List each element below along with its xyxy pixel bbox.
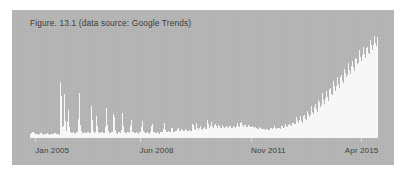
- x-axis: Jan 2005Jun 2008Nov 2011Apr 2015: [30, 138, 378, 160]
- x-axis-tick-mark: [361, 138, 362, 142]
- x-axis-tick-mark: [251, 138, 252, 142]
- plot-area: [30, 30, 378, 138]
- x-axis-tick-label: Jun 2008: [140, 145, 174, 156]
- x-axis-tick-label: Apr 2015: [345, 145, 379, 156]
- figure-caption: Figure. 13.1 (data source: Google Trends…: [30, 18, 191, 29]
- x-axis-tick-label: Jan 2005: [35, 145, 69, 156]
- x-axis-tick-mark: [140, 138, 141, 142]
- series-area-path: [30, 30, 378, 138]
- area-chart-svg: [30, 30, 378, 138]
- figure-root: Figure. 13.1 (data source: Google Trends…: [0, 0, 406, 182]
- figure-panel: Figure. 13.1 (data source: Google Trends…: [12, 10, 394, 165]
- x-axis-tick-label: Nov 2011: [251, 145, 286, 156]
- x-axis-tick-mark: [35, 138, 36, 142]
